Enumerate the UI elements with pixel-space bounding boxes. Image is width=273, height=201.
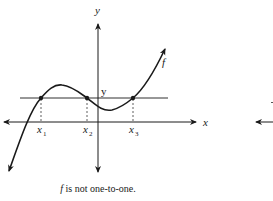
- caption: f is not one-to-one.: [0, 183, 196, 194]
- curve-label: f: [162, 56, 167, 68]
- intersection-point-1: [39, 96, 43, 100]
- adjacent-figure-mark: [271, 102, 273, 103]
- y-axis-label: y: [94, 4, 100, 16]
- not-one-to-one-diagram: y y x f x 1 x 2 x 3: [0, 0, 273, 201]
- x3-label: x: [128, 123, 134, 135]
- intersection-point-3: [131, 96, 135, 100]
- x1-label: x: [36, 123, 42, 135]
- x-axis-label: x: [202, 116, 208, 128]
- x3-subscript: 3: [135, 130, 139, 138]
- intersection-point-2: [85, 96, 89, 100]
- x1-subscript: 1: [43, 130, 47, 138]
- x2-subscript: 2: [89, 130, 93, 138]
- x2-label: x: [82, 123, 88, 135]
- horizontal-line-label: y: [101, 85, 107, 97]
- caption-text: is not one-to-one.: [63, 183, 136, 194]
- function-curve: [9, 49, 165, 171]
